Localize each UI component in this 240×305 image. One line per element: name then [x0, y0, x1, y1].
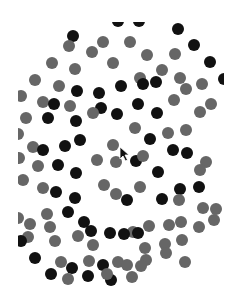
black-dot[interactable]: [152, 166, 164, 178]
black-dot[interactable]: [181, 147, 193, 159]
black-dot[interactable]: [133, 22, 145, 27]
gray-dot[interactable]: [87, 107, 99, 119]
mouse-cursor-icon: [119, 146, 131, 162]
black-dot[interactable]: [59, 140, 71, 152]
gray-dot[interactable]: [69, 63, 81, 75]
gray-dot[interactable]: [134, 181, 146, 193]
black-dot[interactable]: [150, 76, 162, 88]
gray-dot[interactable]: [180, 83, 192, 95]
black-dot[interactable]: [37, 144, 49, 156]
black-dot[interactable]: [172, 23, 184, 35]
black-dot[interactable]: [115, 80, 127, 92]
gray-dot[interactable]: [107, 139, 119, 151]
black-dot[interactable]: [193, 181, 205, 193]
gray-dot[interactable]: [163, 219, 175, 231]
black-dot[interactable]: [74, 134, 86, 146]
gray-dot[interactable]: [32, 160, 44, 172]
black-dot[interactable]: [121, 194, 133, 206]
gray-dot[interactable]: [91, 154, 103, 166]
gray-dot[interactable]: [194, 164, 206, 176]
gray-dot[interactable]: [63, 40, 75, 52]
black-dot[interactable]: [167, 144, 179, 156]
gray-dot[interactable]: [29, 74, 41, 86]
gray-dot[interactable]: [46, 57, 58, 69]
black-dot[interactable]: [204, 56, 216, 68]
black-dot[interactable]: [82, 270, 94, 282]
gray-dot[interactable]: [129, 122, 141, 134]
black-dot[interactable]: [144, 133, 156, 145]
black-dot[interactable]: [70, 167, 82, 179]
black-dot[interactable]: [156, 193, 168, 205]
gray-dot[interactable]: [208, 214, 220, 226]
gray-dot[interactable]: [20, 112, 32, 124]
gray-dot[interactable]: [44, 221, 56, 233]
gray-dot[interactable]: [196, 78, 208, 90]
black-dot[interactable]: [18, 235, 27, 247]
gray-dot[interactable]: [126, 271, 138, 283]
gray-dot[interactable]: [137, 150, 149, 162]
gray-dot[interactable]: [176, 234, 188, 246]
black-dot[interactable]: [118, 228, 130, 240]
black-dot[interactable]: [29, 252, 41, 264]
gray-dot[interactable]: [37, 182, 49, 194]
black-dot[interactable]: [188, 39, 200, 51]
gray-dot[interactable]: [97, 36, 109, 48]
gray-dot[interactable]: [121, 259, 133, 271]
black-dot[interactable]: [42, 112, 54, 124]
black-dot[interactable]: [112, 22, 124, 27]
gray-dot[interactable]: [173, 194, 185, 206]
gray-dot[interactable]: [175, 216, 187, 228]
black-dot[interactable]: [104, 227, 116, 239]
gray-dot[interactable]: [139, 242, 151, 254]
gray-dot[interactable]: [101, 268, 113, 280]
gray-dot[interactable]: [168, 94, 180, 106]
black-dot[interactable]: [132, 98, 144, 110]
black-dot[interactable]: [48, 98, 60, 110]
gray-dot[interactable]: [141, 49, 153, 61]
gray-dot[interactable]: [160, 247, 172, 259]
gray-dot[interactable]: [18, 90, 27, 102]
gray-dot[interactable]: [135, 260, 147, 272]
gray-dot[interactable]: [83, 255, 95, 267]
black-dot[interactable]: [70, 115, 82, 127]
black-dot[interactable]: [45, 268, 57, 280]
gray-dot[interactable]: [197, 202, 209, 214]
gray-dot[interactable]: [162, 127, 174, 139]
gray-dot[interactable]: [18, 128, 24, 140]
black-dot[interactable]: [71, 85, 83, 97]
black-dot[interactable]: [69, 192, 81, 204]
gray-dot[interactable]: [72, 230, 84, 242]
gray-dot[interactable]: [87, 239, 99, 251]
gray-dot[interactable]: [98, 179, 110, 191]
gray-dot[interactable]: [194, 106, 206, 118]
black-dot[interactable]: [151, 107, 163, 119]
gray-dot[interactable]: [107, 57, 119, 69]
gray-dot[interactable]: [156, 64, 168, 76]
gray-dot[interactable]: [62, 273, 74, 285]
gray-dot[interactable]: [124, 36, 136, 48]
gray-dot[interactable]: [193, 221, 205, 233]
black-dot[interactable]: [111, 108, 123, 120]
gray-dot[interactable]: [49, 235, 61, 247]
gray-dot[interactable]: [53, 80, 65, 92]
black-dot[interactable]: [52, 159, 64, 171]
gray-dot[interactable]: [205, 98, 217, 110]
black-dot[interactable]: [132, 227, 144, 239]
gray-dot[interactable]: [86, 46, 98, 58]
black-dot[interactable]: [218, 73, 224, 85]
gray-dot[interactable]: [169, 48, 181, 60]
gray-dot[interactable]: [180, 124, 192, 136]
gray-dot[interactable]: [18, 152, 25, 164]
black-dot[interactable]: [85, 225, 97, 237]
gray-dot[interactable]: [64, 100, 76, 112]
black-dot[interactable]: [50, 186, 62, 198]
black-dot[interactable]: [137, 78, 149, 90]
gray-dot[interactable]: [179, 256, 191, 268]
black-dot[interactable]: [62, 206, 74, 218]
dot-field-canvas[interactable]: [0, 0, 240, 305]
gray-dot[interactable]: [41, 208, 53, 220]
gray-dot[interactable]: [24, 218, 36, 230]
gray-dot[interactable]: [18, 174, 29, 186]
black-dot[interactable]: [93, 87, 105, 99]
gray-dot[interactable]: [143, 220, 155, 232]
